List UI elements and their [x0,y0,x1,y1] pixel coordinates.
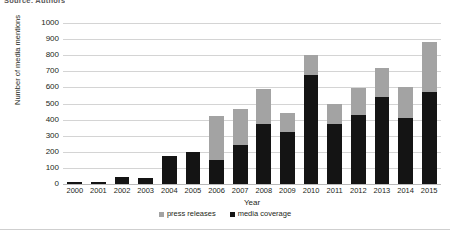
bar-group[interactable] [304,55,319,184]
x-axis-tick-label: 2001 [87,186,111,196]
bar-segment-press-releases[interactable] [256,89,271,124]
x-axis-tick-label: 2014 [394,186,418,196]
x-axis-tick-label: 2002 [110,186,134,196]
x-axis-tick-labels: 2000200120022003200420052006200720082009… [63,186,441,197]
bar-group[interactable] [115,177,130,184]
y-axis-tick-labels: 10009008007006005004003002001000 [22,23,59,184]
bar-segment-press-releases[interactable] [209,116,224,159]
bar-group[interactable] [233,109,248,184]
bar-segment-media-coverage[interactable] [209,160,224,184]
y-axis-title: Number of media mentions [14,0,22,130]
bar-group[interactable] [351,88,366,184]
bar-segment-press-releases[interactable] [351,88,366,115]
y-axis-tick-label: 200 [25,148,59,156]
x-axis-tick-label: 2003 [134,186,158,196]
legend-item[interactable]: media coverage [230,210,291,218]
bar-segment-media-coverage[interactable] [304,75,319,184]
bar-group[interactable] [327,104,342,185]
bar-segment-media-coverage[interactable] [398,118,413,184]
bar-segment-media-coverage[interactable] [186,152,201,184]
x-axis-tick-label: 2009 [276,186,300,196]
bar-group[interactable] [256,89,271,184]
y-axis-tick-label: 0 [25,180,59,188]
x-axis-tick-label: 2007 [228,186,252,196]
bar-group[interactable] [67,182,82,184]
y-axis-tick-label: 1000 [25,19,59,27]
y-axis-tick-label: 400 [25,116,59,124]
bar-segment-media-coverage[interactable] [233,145,248,184]
bar-segment-media-coverage[interactable] [115,177,130,184]
bar-group[interactable] [280,113,295,184]
bottom-divider [0,229,450,230]
bar-group[interactable] [209,116,224,184]
bar-group[interactable] [186,152,201,184]
y-axis-tick-label: 100 [25,164,59,172]
y-axis-tick-label: 900 [25,35,59,43]
x-axis-tick-label: 2012 [347,186,371,196]
bar-segment-media-coverage[interactable] [67,182,82,184]
bar-segment-media-coverage[interactable] [422,92,437,184]
x-axis-tick-label: 2006 [205,186,229,196]
bar-segment-media-coverage[interactable] [91,182,106,184]
bar-segment-press-releases[interactable] [304,55,319,74]
bar-segment-media-coverage[interactable] [327,124,342,184]
y-axis-tick-label: 700 [25,67,59,75]
bar-segment-media-coverage[interactable] [375,97,390,184]
bar-segment-press-releases[interactable] [375,68,390,97]
bar-segment-press-releases[interactable] [398,87,413,118]
bar-group[interactable] [422,42,437,184]
x-axis-tick-label: 2013 [370,186,394,196]
legend-item[interactable]: press releases [159,210,216,218]
gridline [63,184,441,185]
legend-label: press releases [167,210,216,218]
y-axis-tick-label: 500 [25,100,59,108]
legend-label: media coverage [238,210,291,218]
bar-segment-media-coverage[interactable] [256,124,271,184]
x-axis-tick-label: 2015 [417,186,441,196]
bar-group[interactable] [162,156,177,184]
x-axis-tick-label: 2011 [323,186,347,196]
bar-group[interactable] [375,68,390,184]
bar-segment-press-releases[interactable] [422,42,437,92]
bar-segment-media-coverage[interactable] [280,132,295,184]
bar-group[interactable] [398,87,413,184]
y-axis-tick-label: 600 [25,83,59,91]
x-axis-tick-label: 2008 [252,186,276,196]
bar-segment-media-coverage[interactable] [138,178,153,184]
x-axis-tick-label: 2004 [158,186,182,196]
x-axis-title: Year [63,198,441,207]
y-axis-tick-label: 800 [25,51,59,59]
legend-swatch-icon [230,212,235,217]
x-axis-tick-label: 2010 [299,186,323,196]
bar-group[interactable] [138,178,153,184]
bar-segment-press-releases[interactable] [233,109,248,145]
legend-swatch-icon [159,212,164,217]
bar-segment-press-releases[interactable] [327,104,342,125]
x-axis-tick-label: 2005 [181,186,205,196]
bar-group[interactable] [91,182,106,184]
bar-segment-press-releases[interactable] [280,113,295,132]
chart-legend: press releasesmedia coverage [0,210,450,218]
chart-figure: Source: Authors Number of media mentions… [0,0,450,231]
plot-area [63,23,441,184]
y-axis-tick-label: 300 [25,132,59,140]
x-axis-tick-label: 2000 [63,186,87,196]
bar-segment-media-coverage[interactable] [351,115,366,184]
bars-layer [63,23,441,184]
bar-segment-media-coverage[interactable] [162,156,177,184]
